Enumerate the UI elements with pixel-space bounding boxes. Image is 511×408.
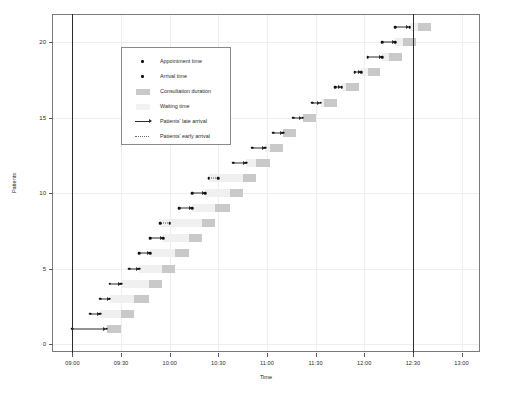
legend-dotted-line-icon xyxy=(128,129,158,144)
legend-item: Appointment time xyxy=(122,54,230,69)
y-tick-label: 20 xyxy=(39,39,46,45)
legend-item: Waiting time xyxy=(122,99,230,114)
consultation-duration-bar xyxy=(189,234,202,242)
legend-item: Patients' early arrival xyxy=(122,129,230,144)
y-tick-label: 0 xyxy=(43,341,46,347)
x-tick xyxy=(121,353,122,357)
arrival-time-dot xyxy=(191,207,194,210)
chart-legend: Appointment timeArrival timeConsultation… xyxy=(121,47,231,145)
waiting-time-bar xyxy=(110,295,134,303)
waiting-time-bar xyxy=(150,249,174,257)
arrival-time-dot xyxy=(207,177,210,180)
appointment-time-dot xyxy=(272,131,275,134)
consultation-duration-bar xyxy=(107,325,122,333)
y-tick-label: 10 xyxy=(39,190,46,196)
legend-dot-icon xyxy=(128,69,158,84)
appointment-time-dot xyxy=(168,222,171,225)
x-tick-label: 10:30 xyxy=(211,360,226,366)
x-tick-label: 12:30 xyxy=(406,360,421,366)
consultation-duration-bar xyxy=(389,53,402,61)
gridline-vertical-12-00 xyxy=(364,15,365,351)
waiting-time-bar xyxy=(163,234,189,242)
consultation-duration-bar xyxy=(215,204,230,212)
y-tick-label: 15 xyxy=(39,115,46,121)
gridline-horizontal-15 xyxy=(53,118,479,119)
arrival-time-dot xyxy=(282,131,285,134)
x-tick-label: 12:00 xyxy=(357,360,372,366)
consultation-duration-bar xyxy=(303,114,316,122)
x-tick-label: 11:30 xyxy=(309,360,323,366)
consultation-duration-bar xyxy=(149,280,162,288)
y-tick xyxy=(49,344,53,345)
consultation-duration-bar xyxy=(243,174,256,182)
appointment-time-dot xyxy=(191,192,194,195)
plot-area: 09:0009:3010:0010:3011:0011:3012:0012:30… xyxy=(52,14,480,352)
consultation-duration-bar xyxy=(134,295,149,303)
consultation-duration-bar xyxy=(256,159,271,167)
appointment-time-dot xyxy=(217,177,220,180)
y-tick-label: 5 xyxy=(43,266,46,272)
x-tick xyxy=(462,353,463,357)
x-tick-label: 09:00 xyxy=(65,360,80,366)
appointment-time-dot xyxy=(128,267,131,270)
arrival-time-dot xyxy=(149,252,152,255)
waiting-time-bar xyxy=(192,204,215,212)
consultation-duration-bar xyxy=(368,68,381,76)
y-tick xyxy=(49,269,53,270)
consultation-duration-bar xyxy=(418,23,431,31)
x-tick xyxy=(267,353,268,357)
consultation-duration-bar xyxy=(270,144,283,152)
waiting-time-bar xyxy=(121,280,149,288)
appointment-time-dot xyxy=(89,312,92,315)
x-tick xyxy=(218,353,219,357)
x-tick-label: 10:00 xyxy=(162,360,177,366)
appointment-time-dot xyxy=(366,56,369,59)
waiting-time-bar xyxy=(246,159,256,167)
session-boundary-line xyxy=(72,14,73,354)
waiting-time-bar xyxy=(205,189,229,197)
consultation-duration-bar xyxy=(175,249,190,257)
legend-label: Patients' late arrival xyxy=(160,118,207,124)
legend-label: Appointment time xyxy=(160,58,202,64)
line-icon xyxy=(135,121,149,122)
consultation-duration-bar xyxy=(403,38,416,46)
legend-item: Arrival time xyxy=(122,69,230,84)
arrowhead-icon xyxy=(149,119,152,123)
dot-icon xyxy=(141,60,144,63)
gridline-horizontal-5 xyxy=(53,269,479,270)
clinic-schedule-figure: 09:0009:3010:0010:3011:0011:3012:0012:30… xyxy=(0,0,511,408)
x-tick xyxy=(316,353,317,357)
legend-label: Consultation duration xyxy=(160,88,211,94)
x-tick-label: 11:00 xyxy=(260,360,274,366)
arrival-time-dot xyxy=(360,71,363,74)
y-tick xyxy=(49,118,53,119)
x-tick xyxy=(72,353,73,357)
appointment-time-dot xyxy=(149,237,152,240)
arrival-time-dot xyxy=(108,297,111,300)
gridline-horizontal-0 xyxy=(53,344,479,345)
consultation-duration-bar xyxy=(162,265,175,273)
arrival-time-dot xyxy=(162,237,165,240)
x-tick-label: 13:00 xyxy=(454,360,469,366)
arrival-time-dot xyxy=(408,26,411,29)
consultation-duration-bar xyxy=(283,129,296,137)
appointment-time-dot xyxy=(251,146,254,149)
legend-label: Arrival time xyxy=(160,73,187,79)
consultation-duration-bar xyxy=(230,189,243,197)
waiting-swatch-icon xyxy=(136,104,150,110)
legend-swatch-icon xyxy=(128,84,158,99)
gridline-vertical-13-00 xyxy=(462,15,463,351)
x-tick-label: 09:30 xyxy=(114,360,129,366)
y-axis-title: Patients xyxy=(11,173,17,193)
arrival-time-dot xyxy=(319,101,322,104)
appointment-time-dot xyxy=(292,116,295,119)
appointment-time-dot xyxy=(311,101,314,104)
legend-item: Consultation duration xyxy=(122,84,230,99)
appointment-time-dot xyxy=(334,86,337,89)
x-axis-title: Time xyxy=(260,374,272,380)
consultation-duration-bar xyxy=(121,310,134,318)
arrival-time-dot xyxy=(245,162,248,165)
y-tick xyxy=(49,193,53,194)
arrival-time-dot xyxy=(264,146,267,149)
legend-item: Patients' late arrival xyxy=(122,114,230,129)
